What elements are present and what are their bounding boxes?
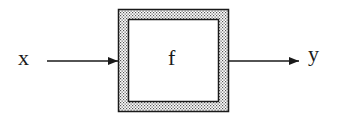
input-label: x [18, 47, 29, 69]
output-label: y [308, 43, 319, 65]
block-label: f [168, 47, 175, 69]
